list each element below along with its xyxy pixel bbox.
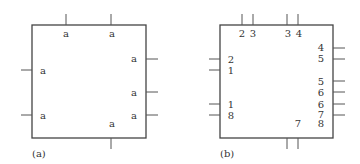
terminal-label: a [131, 87, 137, 98]
terminal-label: 6 [318, 87, 324, 98]
panel-caption: (b) [220, 148, 234, 159]
terminal-label: a [109, 118, 115, 129]
terminal-label: a [109, 28, 115, 39]
terminal-label: a [131, 53, 137, 64]
component-outline [32, 25, 146, 138]
terminal-label: a [63, 28, 69, 39]
component-outline [220, 25, 333, 138]
terminal-label: 2 [239, 28, 245, 39]
terminal-label: 1 [228, 65, 234, 76]
panel-caption: (a) [32, 148, 46, 159]
terminal-label: 5 [318, 53, 324, 64]
terminal-label: a [40, 65, 46, 76]
terminal-label: 3 [285, 28, 291, 39]
terminal-label: 7 [295, 118, 301, 129]
panel-a: aaaaaaaa(a) [21, 14, 158, 159]
terminal-label: 5 [318, 76, 324, 87]
terminal-label: 1 [228, 99, 234, 110]
pin-assignment-diagram: aaaaaaaa(a) 2334211845566787(b) [0, 0, 360, 164]
terminal-label: 3 [250, 28, 256, 39]
terminal-label: 2 [228, 54, 234, 65]
terminal-label: a [40, 110, 46, 121]
terminal-label: a [131, 110, 137, 121]
terminal-label: 4 [318, 42, 324, 53]
terminal-label: 4 [296, 28, 302, 39]
panel-b: 2334211845566787(b) [209, 14, 345, 159]
terminal-label: 8 [228, 110, 234, 121]
terminal-label: 8 [318, 118, 324, 129]
